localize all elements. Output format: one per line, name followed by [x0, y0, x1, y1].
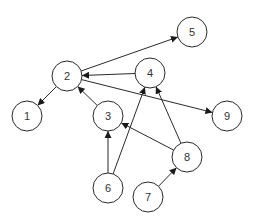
node-2: 2	[52, 61, 82, 91]
arrow-icon	[82, 74, 135, 76]
node-4: 4	[135, 58, 165, 88]
node-label: 3	[105, 110, 111, 122]
node-6: 6	[93, 173, 123, 203]
node-8: 8	[172, 142, 202, 172]
edge-3-to-2	[78, 87, 98, 106]
node-label: 8	[184, 151, 190, 163]
node-7: 7	[133, 182, 163, 212]
edge-8-to-3	[121, 123, 173, 150]
arrow-icon	[78, 87, 98, 106]
node-label: 6	[105, 182, 111, 194]
node-5: 5	[177, 17, 207, 47]
node-1: 1	[12, 101, 42, 131]
arrow-icon	[38, 87, 57, 106]
node-label: 5	[189, 26, 195, 38]
node-9: 9	[212, 101, 242, 131]
arrow-icon	[113, 87, 145, 174]
node-label: 2	[64, 70, 70, 82]
edge-8-to-4	[156, 87, 181, 144]
node-label: 9	[224, 110, 230, 122]
node-3: 3	[93, 101, 123, 131]
arrow-icon	[156, 87, 181, 144]
edge-7-to-8	[159, 168, 177, 187]
arrow-icon	[121, 123, 173, 150]
edge-6-to-4	[113, 87, 145, 174]
node-label: 4	[147, 67, 153, 79]
nodes-layer: 123456789	[12, 17, 242, 212]
edge-2-to-1	[38, 87, 57, 106]
edge-4-to-2	[82, 74, 135, 76]
arrow-icon	[159, 168, 177, 187]
node-label: 7	[145, 191, 151, 203]
node-label: 1	[24, 110, 30, 122]
directed-graph: 123456789	[0, 0, 254, 218]
